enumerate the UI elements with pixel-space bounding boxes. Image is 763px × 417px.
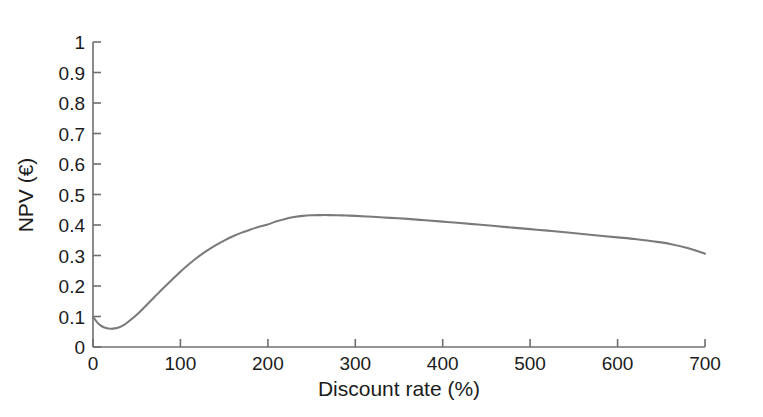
y-tick-label: 0.9 [59,63,85,84]
y-axis-title: NPV (€) [14,158,37,233]
y-tick-label: 0.1 [59,307,85,328]
x-tick-label: 300 [339,353,371,374]
y-tick-label: 0.3 [59,246,85,267]
x-tick-label: 0 [88,353,99,374]
npv-vs-discount-rate-chart: 1 0.9 0.8 0.7 0.6 0.5 0.4 0.3 0.2 0.1 0 … [0,0,763,417]
y-tick-label: 0.5 [59,185,85,206]
y-tick-label: 0.2 [59,276,85,297]
y-tick-label: 0.6 [59,154,85,175]
y-tick-label: 1 [74,32,85,53]
y-tick-label: 0 [74,337,85,358]
chart-background [0,0,763,417]
x-tick-label: 200 [252,353,284,374]
y-tick-label: 0.8 [59,93,85,114]
x-tick-label: 100 [165,353,197,374]
figure-container: 1 0.9 0.8 0.7 0.6 0.5 0.4 0.3 0.2 0.1 0 … [0,0,763,417]
y-tick-label: 0.4 [59,215,86,236]
x-tick-label: 400 [427,353,459,374]
y-axis-tick-labels: 1 0.9 0.8 0.7 0.6 0.5 0.4 0.3 0.2 0.1 0 [59,32,86,358]
x-tick-label: 600 [602,353,634,374]
y-tick-label: 0.7 [59,124,85,145]
x-axis-title: Discount rate (%) [318,377,480,400]
x-tick-label: 700 [689,353,721,374]
x-tick-label: 500 [514,353,546,374]
